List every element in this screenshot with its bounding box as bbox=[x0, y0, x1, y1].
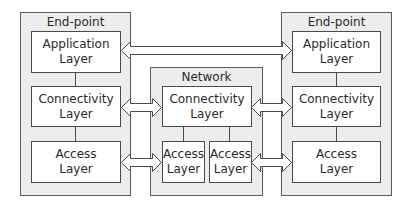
double-arrow-icon bbox=[122, 42, 292, 60]
arrows-layer bbox=[0, 0, 411, 209]
double-arrow-icon bbox=[122, 154, 162, 172]
double-arrow-icon bbox=[122, 99, 162, 117]
double-arrow-icon bbox=[252, 99, 292, 117]
double-arrow-icon bbox=[252, 154, 292, 172]
